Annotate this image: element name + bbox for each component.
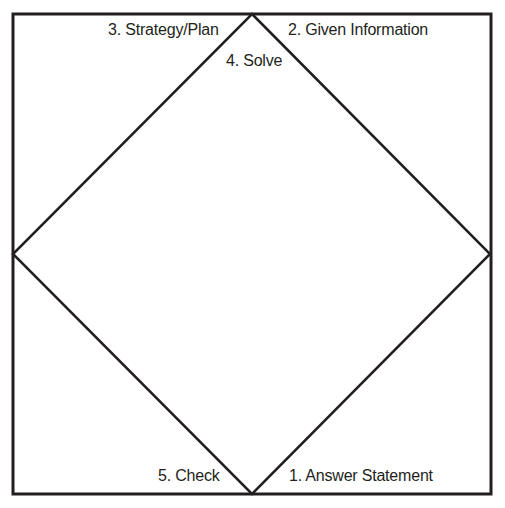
label-given-information: 2. Given Information — [288, 21, 428, 39]
diagram-canvas — [0, 0, 505, 508]
label-check: 5. Check — [158, 467, 220, 485]
label-solve: 4. Solve — [226, 52, 282, 70]
center-diamond — [13, 14, 490, 494]
label-strategy-plan: 3. Strategy/Plan — [108, 21, 219, 39]
outer-frame — [13, 14, 491, 494]
label-answer-statement: 1. Answer Statement — [289, 467, 433, 485]
